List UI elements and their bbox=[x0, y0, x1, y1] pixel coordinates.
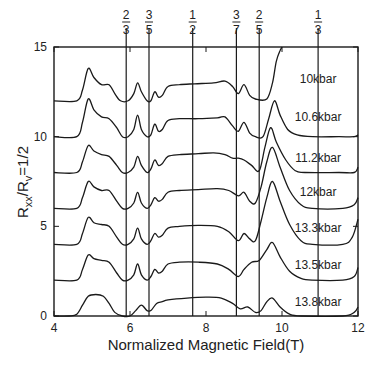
x-tick-label: 8 bbox=[203, 321, 210, 335]
fraction-numerator: 1 bbox=[315, 8, 322, 22]
fraction-denominator: 3 bbox=[315, 23, 322, 37]
series-label: 13.5kbar bbox=[295, 258, 342, 272]
x-tick-label: 4 bbox=[51, 321, 58, 335]
x-axis-title: Normalized Magnetic Field(T) bbox=[108, 336, 305, 353]
fraction-denominator: 5 bbox=[146, 23, 153, 37]
x-tick-label: 6 bbox=[127, 321, 134, 335]
series-label: 10kbar bbox=[300, 72, 337, 86]
y-tick-label: 5 bbox=[40, 219, 47, 233]
plot-frame bbox=[54, 47, 358, 316]
fraction-denominator: 7 bbox=[233, 23, 240, 37]
resistance-curves bbox=[54, 47, 358, 317]
x-tick-label: 10 bbox=[275, 321, 289, 335]
fraction-numerator: 2 bbox=[123, 8, 130, 22]
series-label: 13.3kbar bbox=[295, 221, 342, 235]
fraction-numerator: 3 bbox=[233, 8, 240, 22]
fraction-numerator: 2 bbox=[256, 8, 263, 22]
fraction-denominator: 2 bbox=[189, 23, 196, 37]
series-label: 13.8kbar bbox=[295, 295, 342, 309]
series-label: 10.6kbar bbox=[295, 110, 342, 124]
series-label: 11.2kbar bbox=[295, 151, 341, 165]
fraction-numerator: 1 bbox=[189, 8, 196, 22]
chart-container: 233512372513 4681012 051015 10kbar10.6kb… bbox=[0, 0, 378, 367]
y-tick-label: 15 bbox=[34, 40, 48, 54]
curve-10kbar bbox=[54, 47, 282, 102]
fraction-numerator: 3 bbox=[146, 8, 153, 22]
svg-text:Rxx/Rv=1/2: Rxx/Rv=1/2 bbox=[14, 146, 34, 218]
hall-resistance-plot: 233512372513 4681012 051015 10kbar10.6kb… bbox=[0, 0, 378, 367]
y-tick-label: 0 bbox=[40, 309, 47, 323]
fraction-denominator: 3 bbox=[123, 23, 130, 37]
filling-factor-lines: 233512372513 bbox=[122, 8, 322, 316]
x-tick-label: 12 bbox=[351, 321, 365, 335]
fraction-denominator: 5 bbox=[256, 23, 263, 37]
y-tick-label: 10 bbox=[34, 130, 48, 144]
y-axis-title: Rxx/Rv=1/2 bbox=[14, 146, 34, 218]
series-label: 12kbar bbox=[300, 185, 337, 199]
